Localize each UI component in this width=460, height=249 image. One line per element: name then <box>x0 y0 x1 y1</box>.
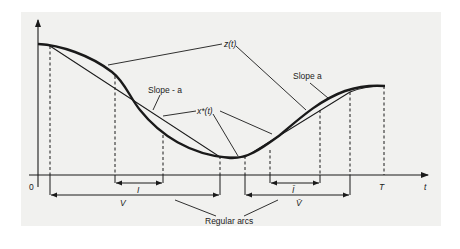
label-slope-negative: Slope - a <box>148 85 182 95</box>
label-horizon-T: T <box>379 182 385 192</box>
label-t-axis: t <box>424 182 427 192</box>
leader-lines <box>108 44 328 216</box>
label-origin: 0 <box>29 182 34 192</box>
label-interval-I-left: I <box>137 185 140 195</box>
interval-brackets <box>50 175 350 195</box>
label-z-curve: z(t) <box>223 39 236 49</box>
z-curve <box>38 44 385 158</box>
trajectory-diagram: z(t) Slope - a Slope a x*(t) 0 T t I Ī V… <box>0 0 460 249</box>
label-slope-positive: Slope a <box>293 71 322 81</box>
label-interval-I-right: Ī <box>292 185 296 195</box>
label-interval-V-right: V̄ <box>296 198 303 208</box>
x-star-curve <box>38 44 385 157</box>
label-interval-V-left: V <box>120 198 127 208</box>
label-x-star: x*(t) <box>196 106 213 116</box>
label-regular-arcs: Regular arcs <box>205 216 253 226</box>
